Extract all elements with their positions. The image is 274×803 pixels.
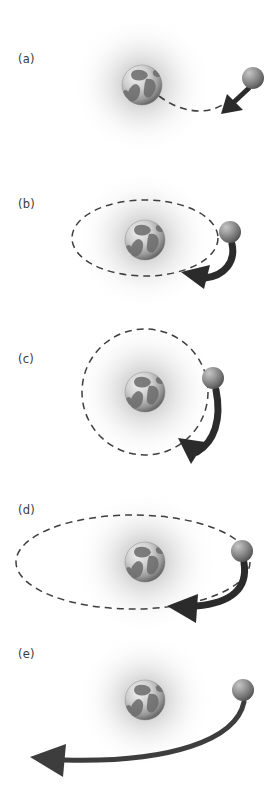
earth-globe	[125, 372, 165, 412]
satellite-ball	[219, 221, 241, 243]
panel-label-d: (d)	[18, 503, 35, 517]
panel-d-graphic	[0, 470, 274, 630]
panel-c-graphic	[0, 310, 274, 470]
panel-b-graphic	[0, 160, 274, 310]
orbital-trajectory-figure: (a)	[0, 0, 274, 803]
velocity-arrow	[221, 88, 249, 114]
panel-a: (a)	[0, 0, 274, 160]
panel-a-graphic	[0, 0, 274, 160]
earth-globe	[125, 680, 165, 720]
panel-label-c: (c)	[18, 352, 34, 366]
satellite-ball	[202, 367, 224, 389]
earth-globe	[122, 65, 162, 105]
panel-c: (c)	[0, 310, 274, 470]
panel-label-e: (e)	[18, 647, 35, 661]
panel-label-b: (b)	[18, 197, 35, 211]
panel-e: (e)	[0, 630, 274, 803]
panel-label-a: (a)	[18, 52, 35, 66]
panel-d: (d)	[0, 470, 274, 630]
panel-e-graphic	[0, 630, 274, 803]
earth-globe	[125, 542, 165, 582]
earth-globe	[125, 220, 165, 260]
escaping-ball	[232, 679, 254, 701]
satellite-ball	[231, 540, 253, 562]
panel-b: (b)	[0, 160, 274, 310]
projectile-ball	[242, 67, 264, 89]
